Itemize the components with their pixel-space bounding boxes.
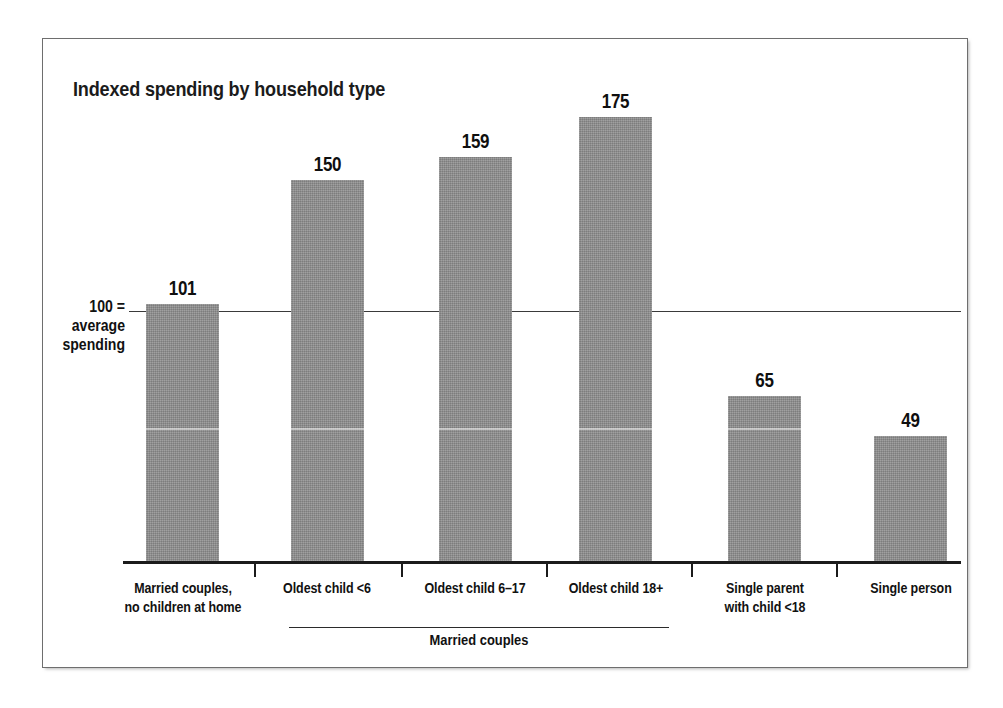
bar-married-no-children: [146, 304, 219, 561]
category-label-line-2: with child <18: [701, 598, 828, 617]
category-label-oldest-child-18-plus: Oldest child 18+: [552, 579, 679, 598]
bar-value-label: 65: [733, 369, 795, 392]
bar-oldest-child-6-17: [439, 157, 512, 561]
axis-tick: [546, 564, 548, 577]
reference-label-line-1: 100 =: [48, 297, 125, 316]
axis-tick: [836, 564, 838, 577]
category-label-line-1: Oldest child 18+: [552, 579, 679, 598]
category-label-line-1: Single person: [847, 579, 974, 598]
bar-oldest-child-18-plus: [579, 117, 652, 561]
reference-line-100: [129, 311, 961, 312]
category-label-single-parent: Single parent with child <18: [701, 579, 828, 617]
category-label-line-1: Oldest child <6: [263, 579, 390, 598]
category-label-married-no-children: Married couples, no children at home: [119, 579, 246, 617]
scan-line-artifact: [123, 428, 961, 430]
axis-tick: [691, 564, 693, 577]
category-label-line-2: no children at home: [119, 598, 246, 617]
bar-value-label: 101: [151, 277, 213, 300]
bar-value-label: 49: [879, 409, 941, 432]
bar-value-label: 159: [444, 130, 506, 153]
chart-figure-frame: Indexed spending by household type 100 =…: [42, 38, 968, 668]
category-label-oldest-child-6-17: Oldest child 6–17: [411, 579, 538, 598]
category-label-oldest-child-under-6: Oldest child <6: [263, 579, 390, 598]
bar-single-person: [874, 436, 947, 561]
axis-tick: [254, 564, 256, 577]
reference-label-line-2: average: [48, 316, 125, 335]
reference-label-line-3: spending: [48, 335, 125, 354]
bar-value-label: 175: [584, 90, 646, 113]
category-label-line-1: Single parent: [701, 579, 828, 598]
bar-oldest-child-under-6: [291, 180, 364, 561]
group-bracket-line: [289, 627, 669, 628]
category-label-single-person: Single person: [847, 579, 974, 598]
group-bracket-label: Married couples: [316, 631, 643, 648]
axis-tick: [401, 564, 403, 577]
plot-area: 100 = average spending 101 150 159 175 6…: [43, 39, 969, 669]
reference-line-label: 100 = average spending: [48, 297, 125, 354]
category-label-line-1: Oldest child 6–17: [411, 579, 538, 598]
bar-value-label: 150: [296, 153, 358, 176]
bar-single-parent-with-child: [728, 396, 801, 561]
category-label-line-1: Married couples,: [119, 579, 246, 598]
